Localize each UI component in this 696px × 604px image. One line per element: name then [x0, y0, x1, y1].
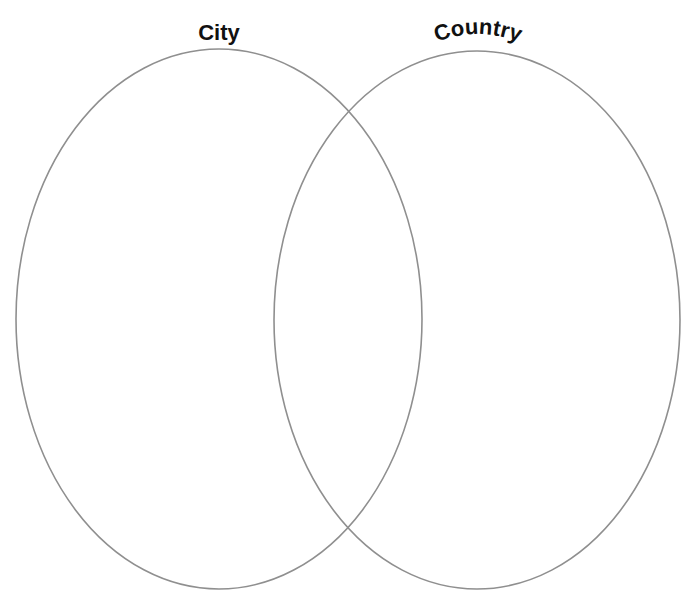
venn-diagram: City Country: [0, 0, 696, 604]
country-label: Country: [431, 14, 527, 47]
country-label-path: Country: [431, 14, 527, 47]
city-ellipse: [16, 49, 422, 589]
city-label: City: [198, 20, 240, 45]
country-ellipse: [274, 51, 680, 589]
